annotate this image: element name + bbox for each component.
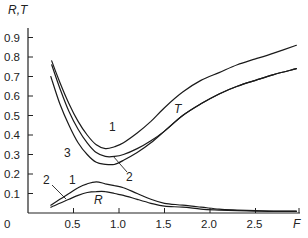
y-tick-label: 0.1 [4,188,20,200]
x-tick-label: 1.0 [110,218,126,230]
y-tick-label: 0.7 [4,71,20,83]
y-tick-label: 0.8 [4,51,20,63]
y-tick-label: 0.9 [4,32,20,44]
curves [51,45,297,211]
r-curve-2 [51,191,297,211]
t-curve-3-label: 3 [64,146,71,160]
x-tick-label: 2.0 [201,218,217,230]
y-tick-label: 0.2 [4,168,20,180]
t-curve-3 [51,69,297,165]
origin-label: 0 [4,218,10,230]
chart: 0.10.20.30.40.50.60.70.80.9 0.51.01.52.0… [0,0,308,238]
y-ticks: 0.10.20.30.40.50.60.70.80.9 [4,32,33,200]
annotations: 1 2 3 T 1 2 R [43,102,183,207]
r-curve-2-label: 2 [43,173,50,187]
t-curve-1 [52,45,297,148]
t-curve-1-label: 1 [109,120,116,134]
r-curve-2-leader [52,185,66,199]
y-tick-label: 0.6 [4,90,20,102]
y-tick-label: 0.3 [4,149,20,161]
r-curve-1-label: 1 [69,173,76,187]
t-curve-2-label: 2 [126,170,133,184]
y-tick-label: 0.4 [4,129,21,141]
y-axis-title: R,T [8,3,29,17]
x-tick-label: 1.5 [156,218,172,230]
x-axis-title: F [293,217,301,231]
x-tick-label: 0.5 [65,218,81,230]
r-group-label: R [94,193,103,207]
t-group-label: T [174,102,183,116]
x-tick-label: 2.5 [247,218,263,230]
y-tick-label: 0.5 [4,110,20,122]
